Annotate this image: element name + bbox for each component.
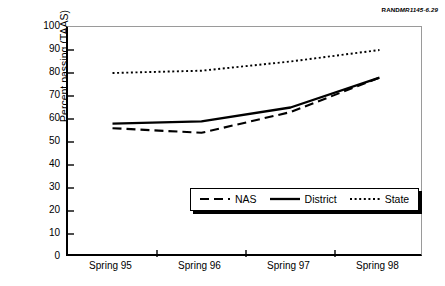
x-tick-label-1: Spring 96 <box>155 261 244 277</box>
x-axis-tick-labels: Spring 95Spring 96Spring 97Spring 98 <box>66 261 422 277</box>
legend-label-district: District <box>305 194 337 205</box>
series-line-state <box>113 50 380 73</box>
legend-entry-district[interactable]: District <box>270 194 337 205</box>
legend-label-state: State <box>385 194 410 205</box>
y-tick-label-30: 30 <box>30 182 60 192</box>
rand-figure-id: RANDMR1145-6.29 <box>382 7 438 13</box>
legend-swatch-nas-icon <box>200 194 230 204</box>
x-tick-label-3: Spring 98 <box>333 261 422 277</box>
plot-svg <box>68 27 424 257</box>
legend-entry-state[interactable]: State <box>350 194 410 205</box>
y-tick-label-50: 50 <box>30 136 60 146</box>
y-axis-tick-labels: 1009080706050403020100 <box>28 26 60 256</box>
x-tick-label-0: Spring 95 <box>66 261 155 277</box>
data-series-group <box>113 50 380 133</box>
y-tick-label-60: 60 <box>30 113 60 123</box>
x-tick-label-2: Spring 97 <box>244 261 333 277</box>
y-tick-label-40: 40 <box>30 159 60 169</box>
legend-entry-nas[interactable]: NAS <box>200 194 257 205</box>
legend-swatch-state-icon <box>350 194 380 204</box>
rand-figure-number: MR1145-6.29 <box>400 6 438 13</box>
chart-legend: NASDistrictState <box>190 188 419 211</box>
plot-area <box>66 26 422 256</box>
y-tick-label-80: 80 <box>30 67 60 77</box>
y-tick-label-90: 90 <box>30 44 60 54</box>
y-tick-label-0: 0 <box>30 251 60 261</box>
rand-logo-text: RAND <box>382 6 400 13</box>
figure-chart-percent-passing-taas: RANDMR1145-6.29 Percent passing (TAAS) 1… <box>0 0 445 286</box>
legend-label-nas: NAS <box>235 194 257 205</box>
x-axis-ticks <box>157 250 335 257</box>
legend-swatch-district-icon <box>270 194 300 204</box>
series-line-district <box>113 78 380 124</box>
y-tick-label-70: 70 <box>30 90 60 100</box>
y-tick-label-100: 100 <box>30 21 60 31</box>
y-tick-label-10: 10 <box>30 228 60 238</box>
series-line-nas <box>113 78 380 133</box>
y-tick-label-20: 20 <box>30 205 60 215</box>
y-axis-ticks <box>68 50 74 234</box>
